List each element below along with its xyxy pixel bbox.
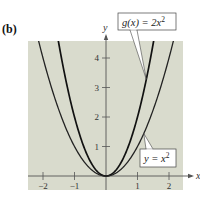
plot-area [28, 41, 183, 190]
x-tick-label: 2 [167, 181, 172, 191]
x-axis-arrow [188, 174, 194, 178]
f-label-exponent: 2 [166, 151, 170, 160]
y-tick-label: 1 [95, 142, 100, 152]
panel-label: (b) [2, 22, 17, 36]
x-tick-label: −2 [38, 181, 48, 191]
y-axis-label: y [102, 22, 108, 33]
x-tick-label: −1 [70, 181, 80, 191]
y-tick-label: 2 [95, 112, 100, 122]
x-tick-label: 1 [135, 181, 140, 191]
g-label-exponent: 2 [161, 15, 165, 24]
x-axis-label: x [195, 170, 200, 181]
y-tick-label: 4 [95, 53, 100, 63]
y-tick-label: 3 [95, 83, 100, 93]
g-label-main: g(x) = 2x [122, 17, 161, 29]
parabola-chart: (b) xy −2−1121234 g(x) = 2x2y = x2 [0, 0, 200, 207]
g-label-text: g(x) = 2x2 [122, 15, 165, 29]
y-axis-arrow [104, 34, 108, 40]
f-label-main: y = x [143, 153, 166, 164]
